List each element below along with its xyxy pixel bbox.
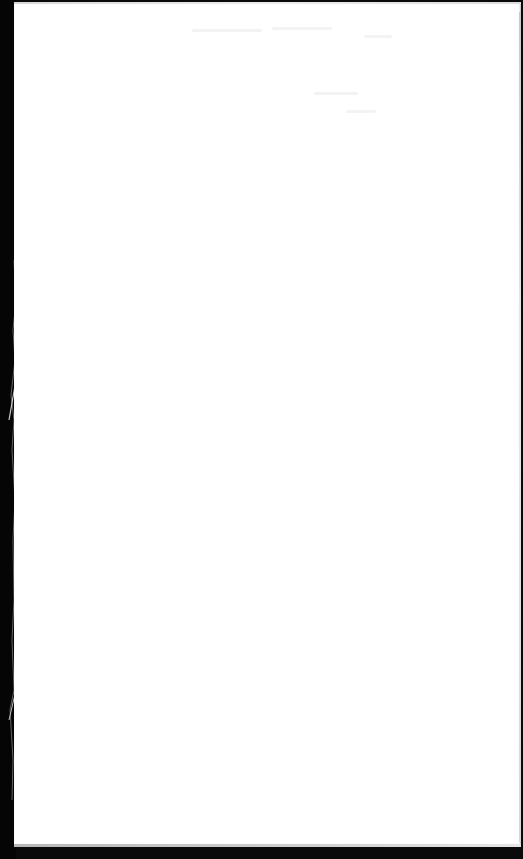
header-text-stroke: [192, 29, 262, 32]
note-text-stroke: [314, 92, 358, 95]
page-bottom-shadow: [14, 844, 521, 847]
page-right-shadow: [519, 12, 521, 842]
header-text-stroke: [272, 27, 332, 30]
paper-page: [14, 2, 521, 847]
scanned-document: [0, 0, 523, 859]
header-text-stroke: [364, 35, 392, 38]
page-top-shadow: [14, 2, 521, 4]
note-text-stroke: [346, 110, 376, 113]
